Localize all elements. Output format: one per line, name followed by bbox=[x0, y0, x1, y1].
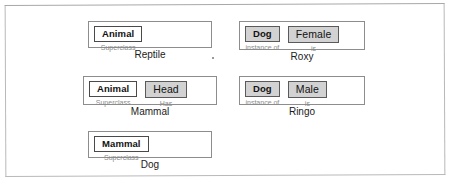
slot-value-chip[interactable]: Dog bbox=[245, 26, 280, 42]
entity-card-box: Animal Superclass bbox=[88, 21, 212, 48]
entity-card-caption: Roxy bbox=[239, 51, 365, 63]
entity-card-caption: Ringo bbox=[239, 106, 365, 118]
slot-label: Superclass bbox=[96, 98, 131, 107]
entity-card-roxy[interactable]: Dog instance of Female is Roxy bbox=[239, 21, 365, 63]
slot-label: Superclass bbox=[104, 153, 139, 162]
slot-label: instance of bbox=[245, 98, 279, 107]
slot-value-chip[interactable]: Male bbox=[288, 81, 327, 98]
slot-is[interactable]: Female is bbox=[288, 26, 340, 53]
slot-value-chip[interactable]: Animal bbox=[94, 26, 142, 42]
entity-card-caption: Mammal bbox=[83, 106, 217, 118]
slot-instance-of[interactable]: Dog instance of bbox=[245, 81, 280, 107]
diagram-canvas: Animal Superclass Reptile Animal Supercl… bbox=[0, 0, 452, 186]
entity-card-ringo[interactable]: Dog instance of Male is Ringo bbox=[239, 76, 365, 118]
slot-value-chip[interactable]: Mammal bbox=[94, 136, 149, 152]
entity-card-reptile[interactable]: Animal Superclass Reptile bbox=[88, 21, 212, 61]
slot-value-chip[interactable]: Animal bbox=[89, 81, 137, 97]
slot-value-chip[interactable]: Dog bbox=[245, 81, 280, 97]
slot-instance-of[interactable]: Dog instance of bbox=[245, 26, 280, 52]
entity-card-box: Dog instance of Female is bbox=[239, 21, 365, 50]
entity-card-box: Mammal Superclass bbox=[88, 131, 212, 158]
slot-has[interactable]: Head Has bbox=[145, 81, 187, 108]
slot-value-chip[interactable]: Head bbox=[145, 81, 187, 98]
entity-card-dog[interactable]: Mammal Superclass Dog bbox=[88, 131, 212, 171]
scan-speck bbox=[212, 57, 214, 59]
slot-label: instance of bbox=[245, 43, 279, 52]
slot-superclass[interactable]: Animal Superclass bbox=[89, 81, 137, 107]
entity-card-box: Dog instance of Male is bbox=[239, 76, 365, 105]
slot-label: Superclass bbox=[101, 43, 136, 52]
entity-card-box: Animal Superclass Head Has bbox=[83, 76, 217, 105]
entity-card-mammal[interactable]: Animal Superclass Head Has Mammal bbox=[83, 76, 217, 118]
slot-value-chip[interactable]: Female bbox=[288, 26, 340, 43]
slot-is[interactable]: Male is bbox=[288, 81, 327, 108]
